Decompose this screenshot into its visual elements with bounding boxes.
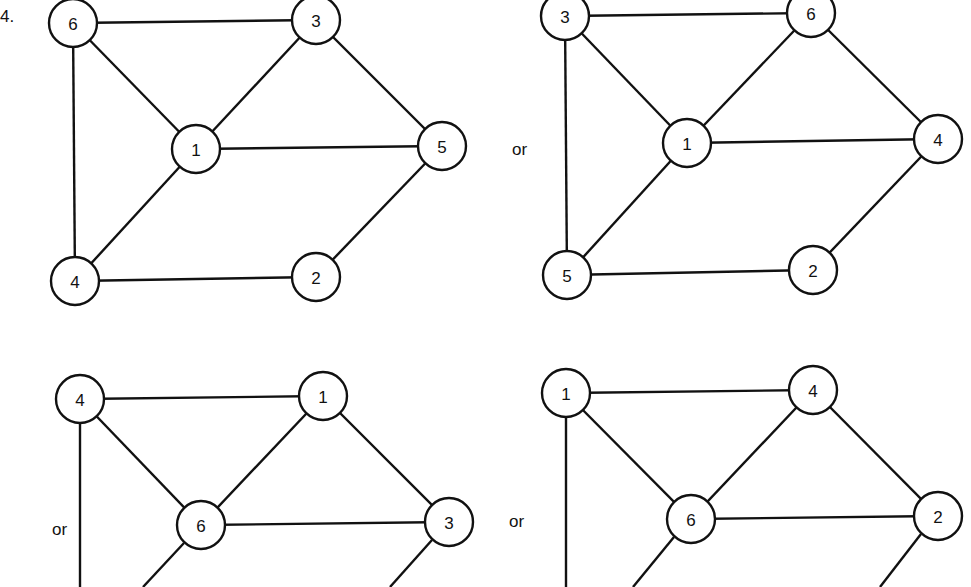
graph-3: 4163or [52,372,473,587]
edge-3-5 [565,16,567,275]
edge-3-5 [316,20,442,146]
node-label: 5 [437,138,446,157]
edge-4-1 [80,396,323,399]
node-label: 1 [318,388,327,407]
edge-1-6 [566,393,691,519]
edge-2-4 [813,139,938,270]
edge-4-2 [75,277,316,281]
node-label: 3 [560,8,569,27]
node-2: 2 [789,246,837,294]
graph-diagram-canvas: 4. 631542361452or4163or1462or [0,0,971,587]
edge-4-6 [80,399,201,525]
node-3: 3 [425,498,473,546]
node-label: 4 [808,382,817,401]
edge-6-4 [73,23,75,281]
node-label: 4 [70,273,79,292]
edge-cut-off [880,534,921,587]
node-2: 2 [914,492,962,540]
node-3: 3 [541,0,589,40]
node-5: 5 [418,122,466,170]
or-label: or [512,140,527,159]
edge-cut-off [633,537,674,587]
node-label: 6 [806,5,815,24]
edge-1-4 [687,139,938,143]
edge-3-1 [565,16,687,143]
node-label: 4 [75,391,84,410]
graph-4: 1462or [509,366,962,587]
node-5: 5 [543,251,591,299]
node-1: 1 [542,369,590,417]
edge-1-5 [567,143,687,275]
node-label: 3 [444,514,453,533]
edge-1-5 [196,146,442,149]
or-label: or [52,520,67,539]
graph-1: 631542 [49,0,466,305]
edge-5-2 [567,270,813,275]
edge-1-6 [201,396,323,525]
edge-3-1 [196,20,316,149]
graph-2: 361452or [512,0,962,299]
node-label: 2 [311,269,320,288]
node-label: 1 [561,385,570,404]
edge-6-4 [811,13,938,139]
node-4: 4 [789,366,837,414]
edge-6-1 [73,23,196,149]
node-1: 1 [299,372,347,420]
edge-6-3 [201,522,449,525]
node-label: 6 [196,517,205,536]
edge-4-2 [813,390,938,516]
node-4: 4 [56,375,104,423]
node-6: 6 [177,501,225,549]
edge-cut-off [390,540,432,587]
node-2: 2 [292,253,340,301]
node-label: 2 [933,508,942,527]
node-label: 5 [562,267,571,286]
problem-number: 4. [0,7,14,26]
edge-6-1 [687,13,811,143]
edge-3-6 [565,13,811,16]
node-label: 2 [808,262,817,281]
node-4: 4 [51,257,99,305]
node-3: 3 [292,0,340,44]
node-label: 4 [933,131,942,150]
node-1: 1 [172,125,220,173]
edge-6-2 [691,516,938,519]
node-6: 6 [787,0,835,37]
edge-1-4 [75,149,196,281]
node-label: 3 [311,12,320,31]
node-label: 6 [68,15,77,34]
node-6: 6 [49,0,97,47]
node-1: 1 [663,119,711,167]
edge-4-6 [691,390,813,519]
node-6: 6 [667,495,715,543]
edge-1-3 [323,396,449,522]
edge-2-5 [316,146,442,277]
node-4: 4 [914,115,962,163]
graphs-layer: 631542361452or4163or1462or [49,0,962,587]
node-label: 6 [686,511,695,530]
node-label: 1 [191,141,200,160]
edge-1-4 [566,390,813,393]
node-label: 1 [682,135,691,154]
edge-cut-off [143,543,184,587]
or-label: or [509,512,524,531]
edge-6-3 [73,20,316,23]
